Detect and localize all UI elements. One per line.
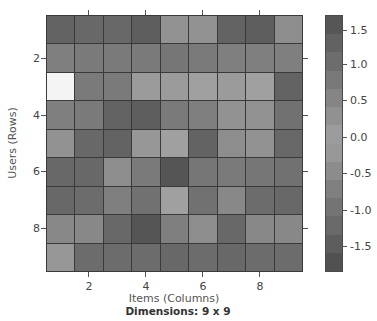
heatmap-cell (75, 73, 102, 100)
heatmap-cell (218, 101, 245, 128)
heatmap-cell (275, 16, 302, 43)
heatmap-cell (47, 187, 74, 214)
heatmap-cell (189, 101, 216, 128)
heatmap-cell (246, 187, 273, 214)
y-tick-right-2 (303, 58, 308, 59)
heatmap-cell (275, 73, 302, 100)
heatmap-cell (246, 244, 273, 271)
colorbar-segment (326, 52, 342, 70)
heatmap-cell (218, 187, 245, 214)
heatmap-cell (75, 158, 102, 185)
x-tick-top-6 (202, 10, 203, 15)
heatmap-cell (104, 158, 131, 185)
y-tick-label: 2 (33, 52, 40, 65)
heatmap-cell (275, 130, 302, 157)
colorbar-tick-label: 1.0 (350, 58, 368, 71)
heatmap-cell (132, 158, 159, 185)
cb-tick (343, 64, 347, 65)
colorbar-segment (326, 198, 342, 216)
heatmap-cell (189, 158, 216, 185)
cb-tick (343, 246, 347, 247)
heatmap-cell (218, 73, 245, 100)
heatmap-cell (161, 158, 188, 185)
heatmap-cell (47, 44, 74, 71)
heatmap-cell (104, 44, 131, 71)
y-tick-right-8 (303, 228, 308, 229)
heatmap-cell (275, 244, 302, 271)
heatmap-cell (161, 215, 188, 242)
y-axis-label: Users (Rows) (6, 107, 19, 179)
heatmap-cell (161, 73, 188, 100)
heatmap-cell (218, 244, 245, 271)
x-tick-label: 2 (86, 280, 93, 293)
heatmap-cell (218, 44, 245, 71)
colorbar-tick-label: 0.0 (350, 131, 368, 144)
heatmap-cell (246, 73, 273, 100)
colorbar-segment (326, 235, 342, 253)
y-tick-right-6 (303, 171, 308, 172)
heatmap-cell (275, 101, 302, 128)
y-tick-label: 6 (33, 165, 40, 178)
heatmap-cell (104, 101, 131, 128)
heatmap-cell (189, 187, 216, 214)
colorbar-segment (326, 180, 342, 198)
heatmap-cell (189, 130, 216, 157)
x-tick-top-2 (88, 10, 89, 15)
heatmap-cell (189, 215, 216, 242)
heatmap-cell (75, 130, 102, 157)
x-tick-2 (88, 272, 89, 277)
heatmap-cell (132, 101, 159, 128)
heatmap-cell (275, 187, 302, 214)
heatmap-cell (218, 16, 245, 43)
cb-tick (343, 173, 347, 174)
heatmap-cell (161, 101, 188, 128)
cb-tick (343, 30, 347, 31)
colorbar-segment (326, 71, 342, 89)
colorbar-segment (326, 89, 342, 107)
heatmap-cell (104, 16, 131, 43)
heatmap-cell (132, 16, 159, 43)
heatmap-cell (104, 187, 131, 214)
heatmap-cell (246, 215, 273, 242)
colorbar-tick-label: -0.5 (350, 167, 371, 180)
x-tick-4 (145, 272, 146, 277)
y-tick-label: 4 (33, 109, 40, 122)
heatmap-cell (132, 73, 159, 100)
heatmap-cell (161, 187, 188, 214)
heatmap-cell (104, 244, 131, 271)
heatmap-cell (75, 215, 102, 242)
heatmap-cell (275, 215, 302, 242)
heatmap-cell (275, 44, 302, 71)
heatmap-cell (104, 73, 131, 100)
y-tick-label: 8 (33, 222, 40, 235)
cb-tick (343, 210, 347, 211)
heatmap-cell (161, 130, 188, 157)
x-axis-label: Items (Columns) (129, 292, 220, 305)
heatmap-cell (104, 130, 131, 157)
heatmap-cell (75, 44, 102, 71)
heatmap-cell (132, 44, 159, 71)
x-tick-top-4 (145, 10, 146, 15)
y-tick-4 (41, 115, 46, 116)
colorbar-segment (326, 107, 342, 125)
colorbar (325, 15, 343, 272)
heatmap-cell (218, 130, 245, 157)
heatmap-cell (275, 158, 302, 185)
heatmap-cell (218, 215, 245, 242)
colorbar-tick-label: -1.0 (350, 204, 371, 217)
heatmap-cell (132, 187, 159, 214)
heatmap-cell (47, 244, 74, 271)
dimensions-caption: Dimensions: 9 x 9 (125, 305, 230, 317)
heatmap-cell (47, 130, 74, 157)
colorbar-segment (326, 216, 342, 234)
colorbar-segment (326, 125, 342, 143)
heatmap-cell (161, 16, 188, 43)
heatmap-plot (46, 15, 303, 272)
cb-tick (343, 100, 347, 101)
heatmap-cell (75, 187, 102, 214)
heatmap-cell (132, 244, 159, 271)
heatmap-cell (189, 16, 216, 43)
y-tick-2 (41, 58, 46, 59)
heatmap-cell (161, 44, 188, 71)
y-tick-6 (41, 171, 46, 172)
